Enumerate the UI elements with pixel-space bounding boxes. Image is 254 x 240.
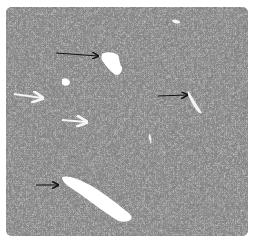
nuclei-texture bbox=[6, 7, 248, 236]
histology-image bbox=[6, 7, 248, 236]
micrograph-frame bbox=[6, 7, 248, 236]
